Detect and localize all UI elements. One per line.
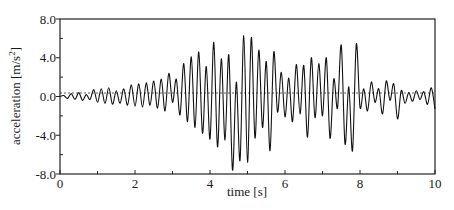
- plot-frame: [60, 19, 435, 174]
- y-axis-label-main: acceleration [m/s: [8, 56, 23, 145]
- y-tick-label: 4.0: [40, 50, 56, 65]
- acceleration-series-line: [60, 35, 435, 170]
- y-axis-label: acceleration [m/s2]: [7, 47, 23, 145]
- y-axis-tick-labels: -8.0-4.00.04.08.0: [35, 12, 56, 182]
- x-tick-label: 10: [429, 176, 442, 191]
- acceleration-chart: -8.0-4.00.04.08.0 0246810 time [s] accel…: [0, 0, 454, 210]
- x-tick-label: 8: [357, 176, 364, 191]
- x-tick-label: 2: [132, 176, 139, 191]
- x-tick-label: 4: [207, 176, 214, 191]
- y-tick-label: 8.0: [40, 12, 56, 27]
- x-axis-label: time [s]: [227, 184, 267, 199]
- x-tick-label: 0: [57, 176, 64, 191]
- y-tick-label: -4.0: [35, 128, 56, 143]
- x-tick-label: 6: [282, 176, 289, 191]
- y-tick-label: -8.0: [35, 167, 56, 182]
- y-axis-label-end: ]: [8, 47, 23, 51]
- x-axis-ticks: [60, 170, 435, 174]
- y-tick-label: 0.0: [40, 89, 56, 104]
